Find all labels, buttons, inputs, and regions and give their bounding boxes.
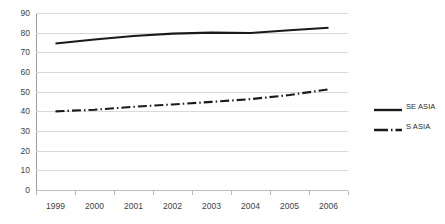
legend-swatch-dash-dot — [374, 121, 402, 131]
x-axis-tick-label: 2002 — [163, 201, 182, 211]
legend-label: S ASIA — [406, 122, 430, 131]
legend-label: SE ASIA — [406, 102, 435, 111]
y-axis-tick-label: 90 — [21, 8, 30, 18]
x-axis-tick — [75, 191, 76, 195]
y-axis-tick-label: 30 — [21, 126, 30, 136]
legend-item-se-asia[interactable]: SE ASIA — [374, 96, 444, 116]
x-axis-tick — [348, 191, 349, 195]
line-chart: 0102030405060708090 19992000200120022003… — [0, 0, 445, 224]
series-line-s-asia — [56, 89, 329, 111]
x-axis-tick — [36, 191, 37, 195]
y-axis-tick-label: 20 — [21, 146, 30, 156]
y-axis-tick-label: 80 — [21, 28, 30, 38]
x-axis-tick — [114, 191, 115, 195]
y-axis-tick-label: 60 — [21, 67, 30, 77]
y-axis-tick-label: 50 — [21, 87, 30, 97]
legend-swatch-solid — [374, 101, 402, 111]
series-line-se-asia — [56, 28, 329, 44]
legend-item-s-asia[interactable]: S ASIA — [374, 116, 444, 136]
x-axis-tick-label: 2001 — [124, 201, 143, 211]
x-axis-tick-label: 2004 — [241, 201, 260, 211]
x-axis-tick — [270, 191, 271, 195]
y-axis-tick-label: 40 — [21, 106, 30, 116]
plot-area — [36, 13, 348, 190]
x-axis-tick — [192, 191, 193, 195]
x-axis-tick — [231, 191, 232, 195]
x-axis-tick-label: 1999 — [46, 201, 65, 211]
x-axis-tick-label: 2006 — [319, 201, 338, 211]
y-axis-tick-label: 0 — [25, 185, 30, 195]
y-axis-tick-label: 10 — [21, 165, 30, 175]
y-axis-tick-label: 70 — [21, 47, 30, 57]
x-axis-tick-label: 2003 — [202, 201, 221, 211]
x-axis-tick-label: 2000 — [85, 201, 104, 211]
legend: SE ASIAS ASIA — [374, 96, 444, 136]
x-axis-tick — [153, 191, 154, 195]
series-layer — [36, 13, 348, 190]
x-axis-tick — [309, 191, 310, 195]
x-axis-tick-label: 2005 — [280, 201, 299, 211]
